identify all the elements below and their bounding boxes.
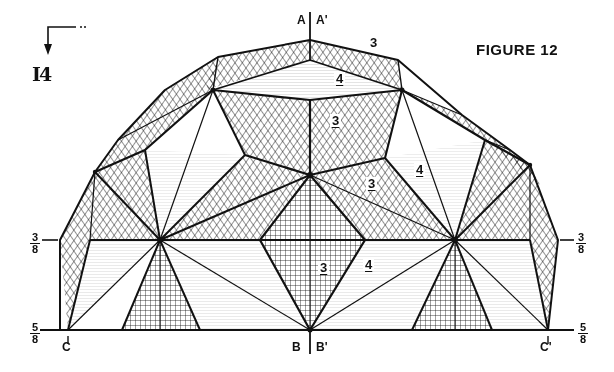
face-label-3-right: 3 xyxy=(366,177,377,190)
ref-mark-a: A xyxy=(297,14,306,26)
figure-title: FIGURE 12 xyxy=(476,42,558,57)
face-label-4-lower: 4 xyxy=(363,258,374,271)
ref-mark-a-prime: A' xyxy=(316,14,328,26)
section-marker-label: I4 xyxy=(32,63,50,85)
ref-mark-c-prime: C' xyxy=(540,341,552,353)
ref-mark-c: C xyxy=(62,341,71,353)
ref-mark-b: B xyxy=(292,341,301,353)
fraction-right-upper: 3 8 xyxy=(576,232,586,255)
face-label-3-lower: 3 xyxy=(318,261,329,274)
face-label-3-top: 3 xyxy=(370,36,377,49)
face-label-4-top: 4 xyxy=(334,72,345,85)
fraction-left-upper: 3 8 xyxy=(30,232,40,255)
fraction-right-lower: 5 8 xyxy=(578,322,588,345)
face-label-3-upper: 3 xyxy=(330,114,341,127)
ref-mark-b-prime: B' xyxy=(316,341,328,353)
fraction-left-lower: 5 8 xyxy=(30,322,40,345)
face-label-4-right: 4 xyxy=(414,163,425,176)
section-arrow-icon xyxy=(44,27,86,55)
